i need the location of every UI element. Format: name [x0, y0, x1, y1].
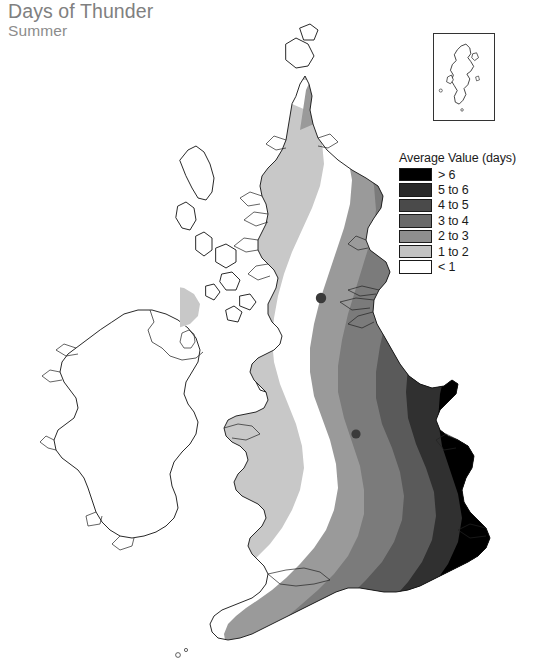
- legend-item: 2 to 3: [399, 229, 516, 244]
- station-marker: [351, 429, 360, 438]
- legend-title: Average Value (days): [399, 151, 516, 165]
- inset-map-canvas: [434, 34, 494, 120]
- legend-label: 3 to 4: [438, 214, 469, 228]
- legend-item: 1 to 2: [399, 244, 516, 259]
- station-marker: [316, 293, 326, 303]
- gb-value-bands: [180, 60, 520, 648]
- legend-swatch: [399, 245, 432, 258]
- legend-label: 2 to 3: [438, 229, 469, 243]
- legend-swatch: [399, 199, 432, 212]
- legend-swatch: [399, 230, 432, 243]
- legend-item: < 1: [399, 259, 516, 274]
- legend-item: 5 to 6: [399, 182, 516, 197]
- legend-swatch: [399, 168, 432, 181]
- legend-label: 4 to 5: [438, 198, 469, 212]
- lough-neagh: [180, 330, 195, 348]
- legend-item: 4 to 5: [399, 198, 516, 213]
- legend-item: > 6: [399, 167, 516, 182]
- small-islands: [176, 648, 188, 657]
- thunder-days-map: Days of Thunder Summer Average Value (da…: [0, 0, 533, 661]
- page-title: Days of Thunder: [8, 2, 153, 22]
- page-subtitle: Summer: [8, 23, 153, 39]
- title-block: Days of Thunder Summer: [8, 2, 153, 39]
- legend-label: 1 to 2: [438, 245, 469, 259]
- legend: Average Value (days) > 65 to 64 to 53 to…: [399, 151, 516, 275]
- legend-label: 5 to 6: [438, 183, 469, 197]
- legend-label: < 1: [438, 260, 455, 274]
- legend-swatch: [399, 214, 432, 227]
- legend-item: 3 to 4: [399, 213, 516, 228]
- legend-label: > 6: [438, 168, 455, 182]
- region-ireland: [40, 310, 203, 550]
- legend-items: > 65 to 64 to 53 to 42 to 31 to 2< 1: [399, 167, 516, 275]
- legend-swatch: [399, 260, 432, 273]
- legend-swatch: [399, 183, 432, 196]
- shetland-islands-inset: [433, 33, 495, 121]
